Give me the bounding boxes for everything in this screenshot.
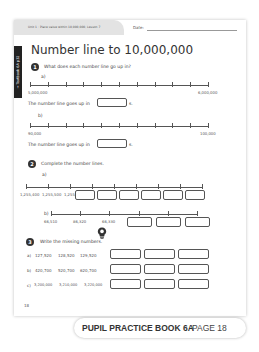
- q3b-blank-3[interactable]: [178, 264, 209, 274]
- q2a-value-1: 1,255,400: [20, 192, 39, 197]
- q1a-number-line: [30, 82, 208, 88]
- q2b-value-1: 66,510: [44, 219, 57, 224]
- q2a-value-2: 1,255,500: [42, 192, 61, 197]
- q2a-blank-5[interactable]: [163, 190, 183, 200]
- q2b-blank-1[interactable]: [127, 217, 152, 227]
- q3c-blank-1[interactable]: [110, 279, 141, 289]
- q3a-blank-3[interactable]: [178, 249, 209, 259]
- q2b-value-3: 66,330: [102, 219, 115, 224]
- question-1-prompt: What does each number line go up in?: [44, 64, 131, 69]
- question-1-badge: 1: [31, 63, 39, 71]
- textbook-reference-tab: → Textbook 6A p32: [14, 46, 22, 98]
- banner-book-title: PUPIL PRACTICE BOOK 6A: [82, 323, 194, 333]
- q2b-blank-3[interactable]: [185, 217, 210, 227]
- date-label: Date:: [133, 25, 144, 30]
- q3b-value-2: 520,700: [58, 268, 75, 273]
- q3a-blank-2[interactable]: [144, 249, 175, 259]
- q2a-blank-2[interactable]: [97, 190, 117, 200]
- q2b-blank-2[interactable]: [156, 217, 181, 227]
- q3a-value-2: 128,520: [58, 253, 75, 258]
- q1a-answer-box[interactable]: [97, 98, 127, 107]
- unit-lesson-text: Unit 1 : Place value within 10,000,000, …: [28, 25, 100, 29]
- q1b-sentence: The number line goes up in: [28, 142, 90, 147]
- q3a-value-1: 127,520: [35, 253, 52, 258]
- q3b-blank-2[interactable]: [144, 264, 175, 274]
- q3c-blank-2[interactable]: [144, 279, 175, 289]
- question-3-prompt: Write the missing numbers.: [40, 239, 102, 244]
- q2a-blank-3[interactable]: [119, 190, 139, 200]
- q3b-blank-1[interactable]: [110, 264, 141, 274]
- q3a-value-3: 129,520: [80, 253, 97, 258]
- q1b-end-label: 100,000: [200, 131, 216, 136]
- page-reference-banner: PUPIL PRACTICE BOOK 6A PAGE 18: [74, 318, 246, 338]
- question-3-badge: 3: [26, 238, 34, 246]
- q1b-answer-box[interactable]: [97, 139, 127, 148]
- worksheet-page: Unit 1 : Place value within 10,000,000, …: [14, 20, 246, 316]
- q2a-blank-4[interactable]: [141, 190, 161, 200]
- question-2-badge: 2: [28, 160, 36, 168]
- q1b-number-line: [30, 123, 208, 129]
- q3c-value-3: 3,220,000: [84, 283, 102, 287]
- page-title: Number line to 10,000,000: [31, 43, 193, 57]
- q1b-start-label: 90,000: [28, 131, 41, 136]
- q1b-label: b): [38, 113, 43, 118]
- q3c-label: c): [27, 283, 31, 288]
- q2a-blank-6[interactable]: [185, 190, 205, 200]
- q1a-start-label: 5,000,000: [28, 90, 47, 95]
- header-band: Unit 1 : Place value within 10,000,000, …: [14, 20, 124, 35]
- q3b-value-3: 620,700: [80, 268, 97, 273]
- q2a-blank-1[interactable]: [75, 190, 95, 200]
- textbook-reference-text: → Textbook 6A p32: [16, 55, 20, 88]
- q3a-label: a): [27, 253, 31, 258]
- q3c-blank-3[interactable]: [178, 279, 209, 289]
- q1a-suffix: s.: [129, 101, 133, 106]
- page-number: 18: [24, 303, 29, 308]
- question-2-prompt: Complete the number lines.: [41, 161, 104, 166]
- q1a-end-label: 6,000,000: [198, 90, 217, 95]
- q3b-label: b): [27, 268, 31, 273]
- q3a-blank-1[interactable]: [110, 249, 141, 259]
- q1a-label: a): [41, 74, 46, 79]
- q1b-suffix: s.: [129, 142, 133, 147]
- q3b-value-1: 420,700: [35, 268, 52, 273]
- q3c-value-1: 3,200,000: [34, 283, 52, 287]
- q2b-label: b): [44, 211, 49, 216]
- q2b-value-2: 86,320: [73, 219, 86, 224]
- banner-page: PAGE 18: [192, 323, 227, 333]
- date-line: [147, 30, 237, 31]
- q1a-sentence: The number line goes up in: [28, 101, 90, 106]
- lightbulb-icon: [97, 227, 107, 239]
- q3c-value-2: 3,210,000: [59, 283, 77, 287]
- q2a-label: a): [42, 172, 47, 177]
